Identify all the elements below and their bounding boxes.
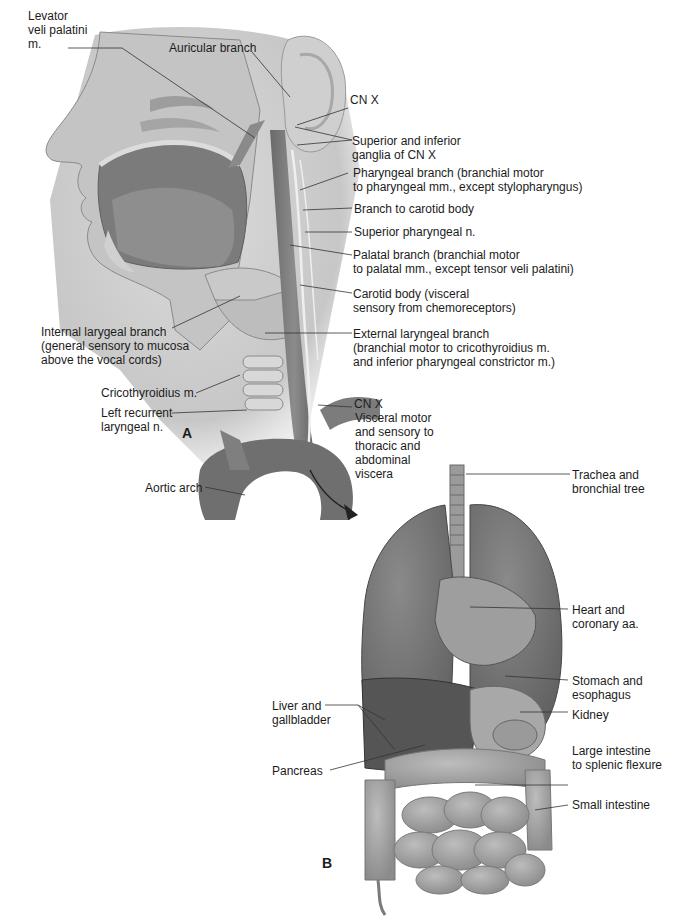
label-visceral-motor: Visceral motor and sensory to thoracic a…	[355, 411, 434, 481]
label-superior-pharyngeal-n: Superior pharyngeal n.	[354, 225, 475, 239]
label-small-intestine: Small intestine	[572, 798, 650, 812]
label-aortic-arch: Aortic arch	[145, 481, 202, 495]
panel-label-a: A	[182, 425, 192, 441]
label-auricular-branch: Auricular branch	[169, 41, 256, 55]
label-trachea: Trachea and bronchial tree	[572, 468, 645, 496]
label-ganglia: Superior and inferior ganglia of CN X	[352, 134, 461, 162]
label-internal-laryngeal-branch: Internal larygeal branch (general sensor…	[41, 325, 189, 367]
label-liver: Liver and gallbladder	[272, 699, 331, 727]
label-cricothyroidius: Cricothyroidius m.	[101, 386, 197, 400]
label-levator-veli-palatini: Levator veli palatini m.	[28, 9, 87, 51]
label-external-laryngeal-branch: External laryngeal branch (branchial mot…	[353, 327, 555, 369]
label-pharyngeal-branch: Pharyngeal branch (branchial motor to ph…	[353, 166, 582, 194]
viscera-illustration	[362, 465, 562, 915]
label-cn-x-top: CN X	[350, 93, 379, 107]
label-left-recurrent-laryngeal-n: Left recurrent laryngeal n.	[101, 406, 172, 434]
figure: Levator veli palatini m. Auricular branc…	[0, 0, 685, 921]
panel-label-b: B	[322, 855, 332, 871]
anatomy-illustration	[0, 0, 685, 921]
label-cn-x-bottom: CN X	[354, 397, 383, 411]
label-branch-to-carotid-body: Branch to carotid body	[354, 202, 474, 216]
label-stomach: Stomach and esophagus	[572, 674, 643, 702]
label-heart: Heart and coronary aa.	[572, 603, 639, 631]
label-large-intestine: Large intestine to splenic flexure	[572, 744, 662, 772]
label-pancreas: Pancreas	[272, 764, 323, 778]
head-neck-illustration	[46, 27, 380, 520]
label-carotid-body: Carotid body (visceral sensory from chem…	[353, 287, 516, 315]
label-palatal-branch: Palatal branch (branchial motor to palat…	[353, 248, 574, 276]
label-kidney: Kidney	[572, 708, 609, 722]
